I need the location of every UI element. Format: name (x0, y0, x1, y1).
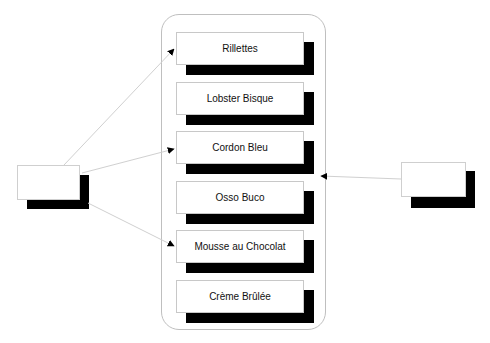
connection-lines (0, 0, 490, 343)
arrow-left-to-mousse (88, 203, 174, 246)
arrow-left-to-cordon-bleu (82, 149, 174, 173)
arrow-right-to-cordon-bleu (321, 176, 401, 179)
arrow-left-to-rillettes (64, 49, 174, 165)
